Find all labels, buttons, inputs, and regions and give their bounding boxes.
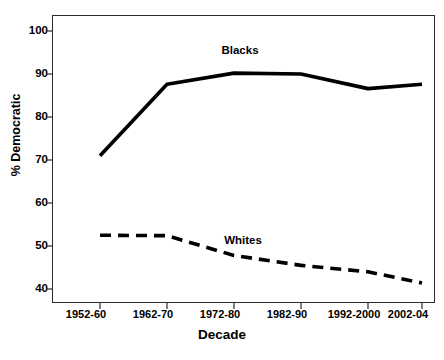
series-label-whites: Whites <box>224 234 262 246</box>
series-label-blacks: Blacks <box>221 44 258 56</box>
y-axis-ticks <box>46 31 52 289</box>
x-tick-label: 1982-90 <box>267 309 307 320</box>
x-tick-label: 2002-04 <box>388 309 428 320</box>
x-tick-label: 1992-2000 <box>328 309 381 320</box>
data-series-group <box>100 73 422 283</box>
x-tick-label: 1972-80 <box>200 309 240 320</box>
chart-screenshot: 405060708090100 % Democratic 1952-601962… <box>0 0 444 360</box>
x-tick-label: 1952-60 <box>66 309 106 320</box>
x-axis-title: Decade <box>0 327 444 342</box>
x-tick-label: 1962-70 <box>133 309 173 320</box>
series-line-blacks <box>100 73 422 156</box>
